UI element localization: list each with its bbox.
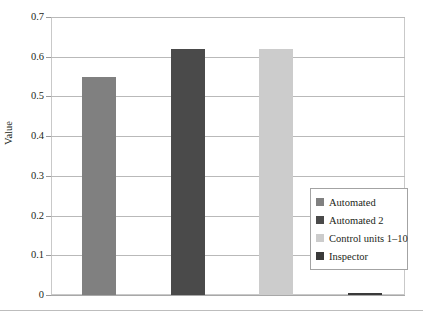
y-tick-label: 0.4: [31, 131, 44, 142]
legend-item[interactable]: Automated 2: [316, 211, 402, 229]
legend-swatch-icon: [316, 216, 324, 224]
y-tick-label: 0.6: [31, 52, 44, 63]
y-tick-label: 0.5: [31, 91, 44, 102]
y-tick-label: 0.3: [31, 171, 44, 182]
legend-item-label: Control units 1–10: [329, 233, 408, 244]
bar-control-units-1-10[interactable]: [259, 49, 293, 295]
legend-item-label: Inspector: [329, 251, 368, 262]
gridline-0: [51, 295, 405, 296]
legend-box: AutomatedAutomated 2Control units 1–10In…: [310, 188, 408, 270]
y-tick-mark: [46, 295, 51, 296]
bar-automated-2[interactable]: [171, 49, 205, 295]
bar-chart-figure: 0.70.60.50.40.30.20.10 Value AutomatedAu…: [0, 0, 423, 318]
bar-automated[interactable]: [82, 77, 116, 295]
legend-swatch-icon: [316, 198, 324, 206]
legend-swatch-icon: [316, 234, 324, 242]
y-axis-title: Value: [3, 131, 15, 145]
y-tick-label: 0.2: [31, 211, 44, 222]
y-tick-label: 0.7: [31, 12, 44, 23]
legend-item-label: Automated: [329, 197, 376, 208]
bar-inspector[interactable]: [348, 293, 382, 295]
legend-item-label: Automated 2: [329, 215, 384, 226]
legend-item[interactable]: Inspector: [316, 247, 402, 265]
legend-swatch-icon: [316, 252, 324, 260]
legend-item[interactable]: Control units 1–10: [316, 229, 402, 247]
y-tick-label: 0: [39, 290, 44, 301]
bottom-divider: [0, 310, 423, 311]
legend-item[interactable]: Automated: [316, 193, 402, 211]
y-tick-label: 0.1: [31, 250, 44, 261]
